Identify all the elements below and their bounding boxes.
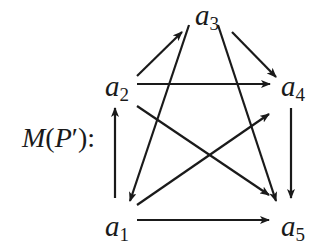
node-a3-base: a <box>195 0 210 31</box>
caption-variable: P <box>55 122 72 153</box>
node-a4-subscript: 4 <box>296 84 306 105</box>
node-a2-base: a <box>105 70 120 102</box>
edge-a3-to-a5-arrow <box>218 25 276 201</box>
node-a1-base: a <box>105 210 120 242</box>
edge-group <box>115 25 291 220</box>
edge-a3-to-a4-arrow <box>232 32 276 77</box>
node-a2: a2 <box>105 72 129 104</box>
caption-open-paren: ( <box>45 122 54 153</box>
node-a5-subscript: 5 <box>296 224 306 244</box>
node-a4-base: a <box>281 70 296 102</box>
node-a5-base: a <box>281 210 296 242</box>
node-a2-subscript: 2 <box>120 84 130 105</box>
caption-function: M <box>22 122 45 153</box>
node-a1: a1 <box>105 212 129 244</box>
node-a3-subscript: 3 <box>210 13 220 34</box>
caption-close: ): <box>78 122 95 153</box>
edge-a1-to-a4-arrow <box>137 114 269 205</box>
graph-caption: M(P′): <box>22 124 95 152</box>
node-a4: a4 <box>281 72 305 104</box>
node-a1-subscript: 1 <box>120 224 130 244</box>
node-a3: a3 <box>195 1 219 33</box>
node-a5: a5 <box>281 212 305 244</box>
